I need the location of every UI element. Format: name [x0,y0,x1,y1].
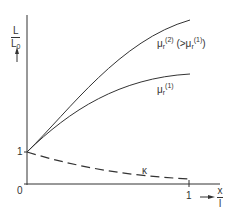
y-label-denominator: L0 [11,39,20,50]
x-axis-label: x l [217,186,223,209]
origin-label: 0 [17,186,23,196]
x-label-numerator: x [218,186,223,196]
x-label-denominator: l [219,199,221,209]
label-kappa: κ [142,166,147,176]
arrow-right-icon [208,195,215,199]
y-label-numerator: L [13,26,19,36]
label-mu-r1: μr(1) [157,82,174,96]
y-axis-label: L L0 [11,26,20,50]
diagram-canvas [0,0,236,213]
label-mu-r2: μr(2) (>μr(1)) [157,36,206,50]
y-tick-one-label: 1 [17,147,23,157]
curve-kappa [27,152,190,179]
x-tick-one-label: 1 [186,191,192,201]
